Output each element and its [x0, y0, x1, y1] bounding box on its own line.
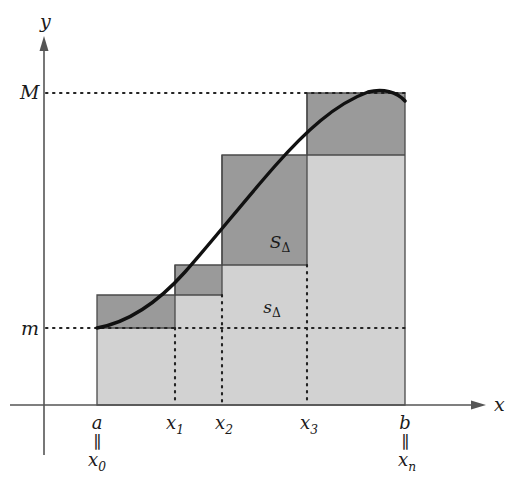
upper-sum-label: SΔ: [270, 234, 291, 255]
x-axis-arrowhead: [471, 401, 486, 410]
partition-label-x3-sub: 3: [310, 423, 318, 437]
partition-label-b-text: b: [399, 412, 411, 433]
partition-label-x3: x3: [300, 414, 318, 436]
upper-sum-band-4: [307, 93, 405, 155]
partition-label-a-text: a: [92, 412, 103, 433]
partition-label-x2-sub: 2: [225, 423, 233, 437]
partition-alias-xn-sub: n: [408, 460, 416, 474]
upper-sum-symbol: S: [270, 232, 282, 252]
lower-sum-label: sΔ: [263, 299, 281, 320]
lower-sum-rect-3: [222, 265, 307, 405]
partition-label-a: a: [92, 414, 103, 432]
y-axis-arrowhead: [40, 36, 49, 51]
lower-sum-rect-2: [175, 295, 222, 405]
upper-sum-subscript: Δ: [281, 241, 290, 255]
lower-sum-rect-4: [307, 155, 405, 405]
upper-bound-label: M: [20, 83, 39, 102]
lower-sum-subscript: Δ: [272, 306, 281, 320]
partition-alias-x0-text: x: [88, 449, 98, 470]
figure-canvas: [0, 0, 520, 477]
lower-bound-label: m: [21, 319, 39, 338]
partition-label-b: b: [399, 414, 411, 432]
partition-label-x2-text: x: [215, 412, 225, 433]
partition-label-x2: x2: [215, 414, 233, 436]
x-axis-label: x: [494, 395, 505, 414]
partition-label-x1-text: x: [166, 412, 176, 433]
upper-sum-band-2: [175, 265, 222, 295]
partition-label-x1: x1: [166, 414, 184, 436]
partition-label-x1-sub: 1: [176, 423, 184, 437]
upper-sum-band-3: [222, 155, 307, 265]
partition-alias-xn: xn: [398, 451, 416, 473]
partition-alias-x0: x0: [88, 451, 106, 473]
y-axis-label: y: [40, 12, 51, 31]
lower-sum-rect-1: [97, 328, 175, 405]
riemann-sum-figure: y x M m SΔ sΔ a ∥ x0 x1 x2 x3 b ∥ xn: [0, 0, 520, 477]
lower-sum-symbol: s: [263, 297, 272, 317]
partition-label-x3-text: x: [300, 412, 310, 433]
partition-alias-x0-sub: 0: [98, 460, 106, 474]
partition-alias-xn-text: x: [398, 449, 408, 470]
